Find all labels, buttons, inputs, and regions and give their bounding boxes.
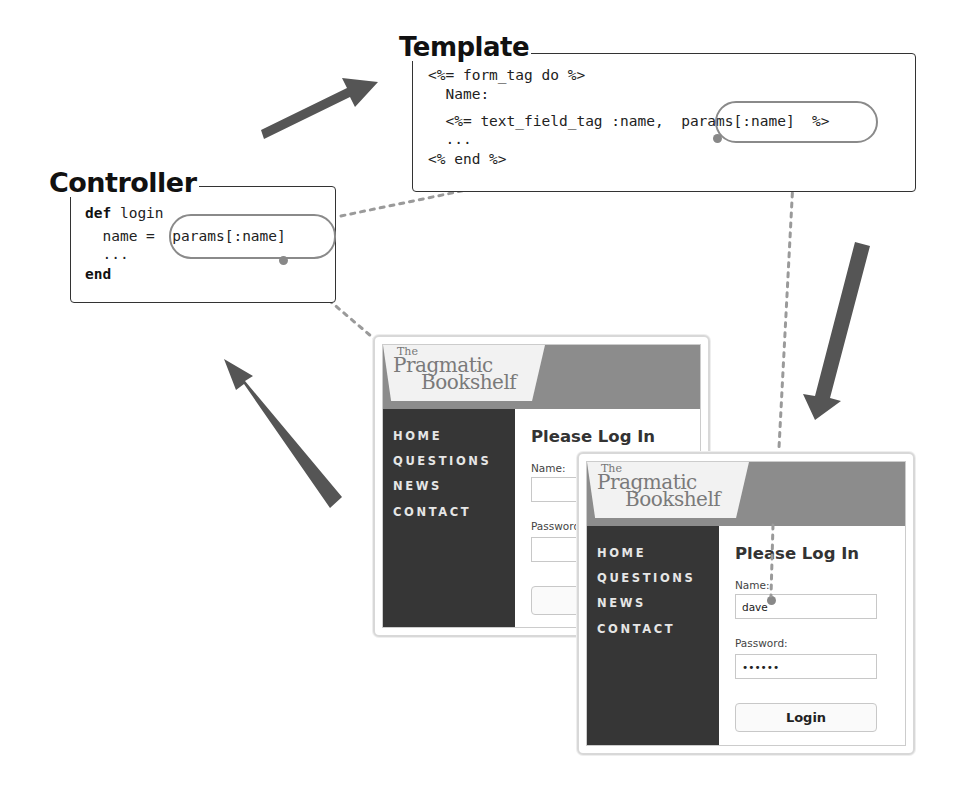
login-form: Please Log In Name: dave Password: •••••…	[719, 526, 905, 745]
nav-questions[interactable]: QUESTIONS	[597, 571, 695, 585]
nav-news[interactable]: NEWS	[597, 596, 646, 610]
template-code-line-1: <%= form_tag do %>	[428, 66, 585, 85]
login-button[interactable]: Login	[735, 703, 877, 732]
controller-params-highlight	[169, 214, 336, 259]
nav-questions[interactable]: QUESTIONS	[393, 454, 491, 468]
arrow-to-browser-icon	[803, 242, 870, 420]
template-title: Template	[399, 33, 531, 61]
keyword-def: def	[85, 205, 111, 221]
nav-contact[interactable]: CONTACT	[393, 505, 471, 519]
controller-code-line-3: ...	[85, 245, 129, 264]
controller-code-line-4: end	[85, 265, 111, 284]
arrow-to-controller-icon	[224, 359, 342, 508]
password-label: Password:	[735, 637, 788, 649]
template-code-line-5: <% end %>	[428, 150, 507, 169]
site-logo[interactable]: The Pragmatic Bookshelf	[383, 345, 545, 401]
login-heading: Please Log In	[531, 427, 655, 446]
controller-title: Controller	[49, 169, 199, 197]
nav-home[interactable]: HOME	[393, 429, 442, 443]
template-connector-dot	[713, 134, 722, 143]
site-logo[interactable]: The Pragmatic Bookshelf	[587, 462, 749, 518]
login-heading: Please Log In	[735, 544, 859, 563]
controller-connector-dot	[279, 256, 288, 265]
browser-viewport: The Pragmatic Bookshelf HOME QUESTIONS N…	[586, 461, 906, 746]
template-params-highlight	[715, 101, 878, 143]
name-input[interactable]: dave	[735, 594, 877, 619]
browser-connector-dot	[767, 596, 776, 605]
site-sidebar: HOME QUESTIONS NEWS CONTACT	[383, 409, 515, 627]
password-label: Password:	[531, 520, 584, 532]
browser-window-front: The Pragmatic Bookshelf HOME QUESTIONS N…	[577, 452, 915, 755]
nav-news[interactable]: NEWS	[393, 479, 442, 493]
site-sidebar: HOME QUESTIONS NEWS CONTACT	[587, 526, 719, 745]
name-label: Name:	[735, 579, 770, 591]
name-label: Name:	[531, 462, 566, 474]
nav-contact[interactable]: CONTACT	[597, 622, 675, 636]
site-header: The Pragmatic Bookshelf	[587, 462, 905, 526]
template-code-line-4: ...	[428, 130, 472, 149]
keyword-end: end	[85, 266, 111, 282]
password-input[interactable]: ••••••	[735, 654, 877, 679]
nav-home[interactable]: HOME	[597, 546, 646, 560]
template-code-line-2: Name:	[428, 85, 489, 104]
arrow-to-template-icon	[261, 78, 378, 139]
site-header: The Pragmatic Bookshelf	[383, 345, 700, 409]
controller-code-line-1: def login	[85, 204, 164, 223]
